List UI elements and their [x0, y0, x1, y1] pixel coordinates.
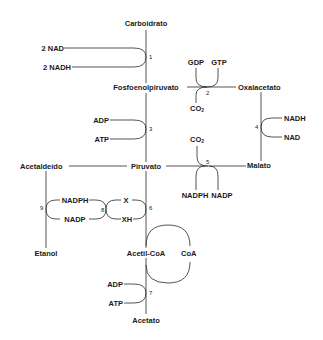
step-6: 6 — [149, 205, 152, 211]
step-5: 5 — [206, 159, 209, 165]
node-acetil-coa: Acetil-CoA — [127, 250, 165, 258]
cofactor-nadp-step9: NADP — [64, 216, 85, 224]
cofactor-nadh-step4: NADH — [284, 115, 306, 123]
cofactor-atp-step3: ATP — [95, 136, 109, 144]
node-coa: CoA — [181, 250, 196, 258]
cofactor-co2-step2: CO2 — [190, 105, 204, 113]
step-3: 3 — [149, 126, 152, 132]
cofactor-atp-step7: ATP — [109, 300, 123, 308]
node-malato: Malato — [247, 162, 271, 170]
step-1: 1 — [149, 54, 152, 60]
node-piruvato: Piruvato — [131, 163, 161, 171]
step-4: 4 — [255, 124, 258, 130]
node-acetaldeido: Acetaldeído — [20, 163, 63, 171]
cofactor-nadp-step5: NADP — [211, 192, 232, 200]
node-acetato: Acetato — [132, 317, 160, 325]
node-oxalacetato: Oxalacetato — [238, 84, 281, 92]
step-8: 8 — [101, 207, 104, 213]
cofactor-xh: XH — [122, 216, 132, 224]
step-7: 7 — [149, 290, 152, 296]
cofactor-gdp: GDP — [188, 59, 204, 67]
step-9: 9 — [40, 205, 43, 211]
cofactor-2nad: 2 NAD — [41, 45, 64, 53]
node-carboidrato: Carboidrato — [125, 20, 168, 28]
cofactor-gtp: GTP — [211, 59, 226, 67]
cofactor-co2-step5: CO2 — [190, 136, 204, 144]
node-fosfoenolpiruvato: Fosfoenolpiruvato — [113, 84, 178, 92]
cofactor-nad-step4: NAD — [284, 134, 300, 142]
node-etanol: Etanol — [35, 250, 58, 258]
cofactor-nadph-step9: NADPH — [62, 197, 89, 205]
cofactor-2nadh: 2 NADH — [43, 64, 71, 72]
cofactor-nadph-step5: NADPH — [182, 192, 209, 200]
cofactor-adp-step7: ADP — [107, 281, 123, 289]
cofactor-x: X — [123, 197, 128, 205]
cofactor-adp-step3: ADP — [93, 117, 109, 125]
step-2: 2 — [206, 90, 209, 96]
